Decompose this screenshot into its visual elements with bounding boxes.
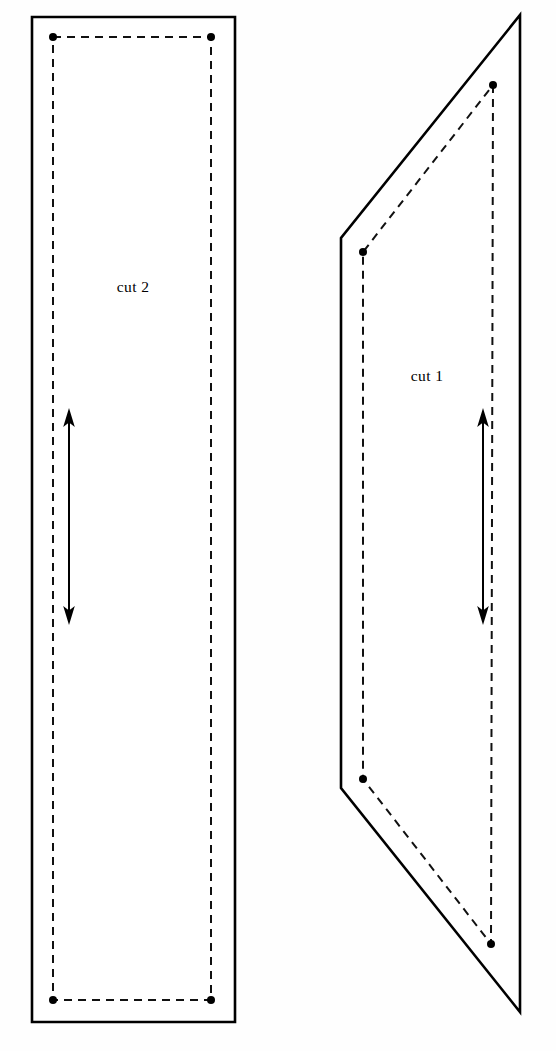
diagram-canvas: cut 2 cut 1 <box>0 0 556 1051</box>
vertex-dot <box>207 996 215 1004</box>
shape-cut-1: cut 1 <box>341 15 520 1012</box>
vertex-dot <box>359 248 367 256</box>
vertex-dot <box>487 940 495 948</box>
vertex-dot <box>359 775 367 783</box>
vertex-dot <box>49 996 57 1004</box>
cut-2-outline <box>32 17 235 1022</box>
cut-1-label: cut 1 <box>411 367 444 384</box>
vertex-dot <box>207 33 215 41</box>
vertex-dot <box>49 33 57 41</box>
shape-cut-2: cut 2 <box>32 17 235 1022</box>
cut-pattern-diagram: cut 2 cut 1 <box>0 0 556 1051</box>
vertex-dot <box>489 81 497 89</box>
cut-1-outline <box>341 15 520 1012</box>
cut-2-label: cut 2 <box>117 278 150 295</box>
